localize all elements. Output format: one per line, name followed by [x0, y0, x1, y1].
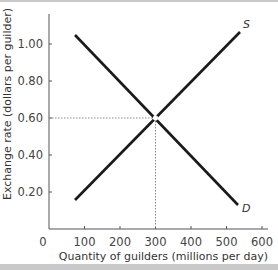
x-tick-label-100: 100 [74, 235, 96, 249]
x-tick-label-600: 600 [251, 235, 273, 249]
supply-demand-chart: 0 100 200 300 400 500 600 0.20 0.40 0.60… [0, 0, 278, 270]
x-tick-label-0: 0 [39, 235, 46, 249]
supply-curve [75, 32, 240, 200]
y-tick-label-020: 0.20 [17, 185, 43, 199]
y-tick-label-080: 0.80 [17, 74, 43, 88]
y-axis-title: Exchange rate (dollars per guilder) [1, 8, 14, 200]
x-tick-label-400: 400 [180, 235, 202, 249]
supply-label: S [243, 18, 250, 31]
y-tick-label-100: 1.00 [17, 37, 43, 51]
equilibrium-point [153, 116, 157, 120]
demand-label: D [242, 202, 250, 215]
x-tick-label-300: 300 [145, 235, 167, 249]
y-tick-label-040: 0.40 [17, 148, 43, 162]
x-axis-title: Quantity of guilders (millions per day) [59, 250, 268, 263]
y-tick-label-060: 0.60 [17, 111, 43, 125]
bottom-border [0, 264, 278, 270]
x-tick-label-500: 500 [216, 235, 238, 249]
x-tick-label-200: 200 [109, 235, 131, 249]
